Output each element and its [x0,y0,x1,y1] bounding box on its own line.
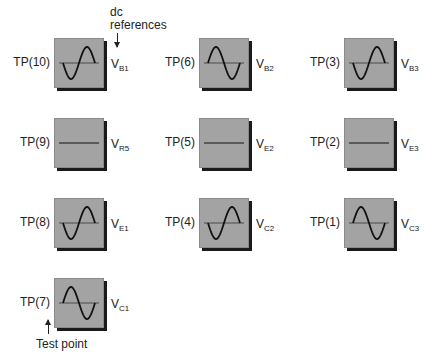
waveform-sine [200,39,248,87]
test-point-label: TP(2) [290,135,340,149]
waveform-inverted-sine [345,39,393,87]
test-point-label: TP(3) [290,55,340,69]
waveform-flat [200,119,248,167]
oscilloscope-display [344,198,394,248]
test-point-arrow-icon [48,320,49,334]
voltage-symbol: V [111,297,119,311]
voltage-subscript: B1 [119,64,129,73]
oscilloscope-display [54,278,104,328]
voltage-reference-label: VC2 [256,217,274,233]
test-point-label: TP(7) [0,295,50,309]
voltage-symbol: V [401,217,409,231]
voltage-subscript: B2 [264,64,274,73]
test-point-label: TP(6) [145,55,195,69]
waveform-sine [55,279,103,327]
oscilloscope-display [199,198,249,248]
voltage-symbol: V [401,57,409,71]
test-point-text: Test point [36,337,87,351]
test-point-label: TP(10) [0,55,50,69]
voltage-symbol: V [111,137,119,151]
oscilloscope-display [54,118,104,168]
voltage-subscript: E2 [264,144,274,153]
voltage-subscript: C1 [119,304,129,313]
voltage-symbol: V [256,57,264,71]
oscilloscope-display [344,118,394,168]
voltage-symbol: V [111,57,119,71]
voltage-reference-label: VB2 [256,57,274,73]
voltage-subscript: E1 [119,224,129,233]
voltage-reference-label: VE2 [256,137,274,153]
waveform-inverted-sine [55,199,103,247]
waveform-sine [345,199,393,247]
waveform-flat [345,119,393,167]
waveform-inverted-sine [55,39,103,87]
test-point-label: TP(9) [0,135,50,149]
voltage-symbol: V [401,137,409,151]
voltage-reference-label: VE1 [111,217,129,233]
voltage-symbol: V [256,217,264,231]
voltage-subscript: R5 [119,144,129,153]
voltage-reference-label: VR5 [111,137,129,153]
voltage-reference-label: VE3 [401,137,419,153]
waveform-flat [55,119,103,167]
voltage-subscript: E3 [409,144,419,153]
voltage-symbol: V [111,217,119,231]
test-point-label: TP(4) [145,215,195,229]
oscilloscope-display [199,118,249,168]
voltage-reference-label: VB1 [111,57,129,73]
test-point-label: TP(1) [290,215,340,229]
test-point-note: Test point [36,338,87,351]
voltage-subscript: B3 [409,64,419,73]
test-point-label: TP(5) [145,135,195,149]
voltage-reference-label: VC1 [111,297,129,313]
voltage-subscript: C2 [264,224,274,233]
oscilloscope-display [344,38,394,88]
voltage-reference-label: VB3 [401,57,419,73]
waveform-inverted-sine [200,199,248,247]
voltage-reference-label: VC3 [401,217,419,233]
voltage-subscript: C3 [409,224,419,233]
test-point-label: TP(8) [0,215,50,229]
dc-references-text: dc references [110,5,167,32]
oscilloscope-display [54,198,104,248]
dc-references-arrow-icon [117,33,118,47]
oscilloscope-display [199,38,249,88]
oscilloscope-display [54,38,104,88]
voltage-symbol: V [256,137,264,151]
dc-references-note: dc references [110,6,167,32]
